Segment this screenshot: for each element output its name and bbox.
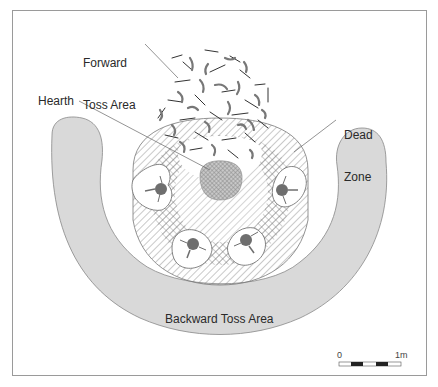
scale-start-label: 0 — [337, 350, 342, 360]
dead-zone-label: Dead Zone — [344, 100, 373, 212]
hearth-label: Hearth — [38, 94, 74, 108]
scale-end-label: 1m — [395, 350, 408, 360]
forward-toss-leader — [145, 44, 178, 78]
backward-toss-label: Backward Toss Area — [165, 312, 274, 326]
hearth — [200, 161, 242, 200]
dead-zone-leader — [294, 120, 336, 152]
forward-toss-label: Forward Toss Area — [83, 28, 136, 140]
scale-bar — [339, 362, 401, 366]
hearth-model-diagram: Forward Toss Area Hearth Dead Zone Backw… — [0, 0, 438, 387]
